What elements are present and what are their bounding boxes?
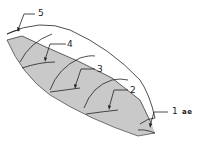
label-2: 2 <box>130 86 136 95</box>
label-4: 4 <box>67 40 73 49</box>
label-5: 5 <box>38 9 44 18</box>
leaf-section-diagram <box>0 0 201 150</box>
label-1: 1 <box>172 107 178 116</box>
label-1-suffix: ae <box>182 109 192 116</box>
label-3: 3 <box>97 65 103 74</box>
